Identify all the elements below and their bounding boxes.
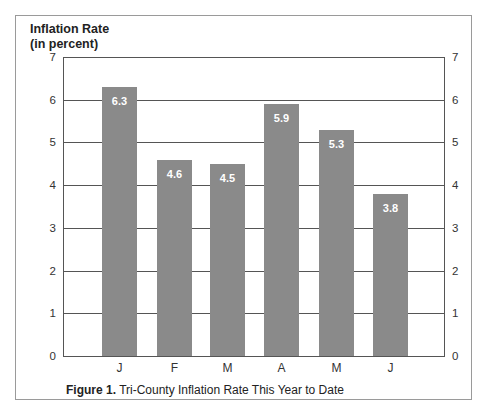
x-tick-label: M <box>319 361 355 375</box>
figure-caption: Figure 1. Tri-County Inflation Rate This… <box>66 383 344 397</box>
figure-label: Figure 1. <box>66 383 116 397</box>
bar-value-label: 6.3 <box>102 95 137 107</box>
y-axis-title-line-1: Inflation Rate <box>30 22 109 37</box>
bar-value-label: 4.5 <box>210 172 245 184</box>
x-tick-label: A <box>264 361 300 375</box>
y-axis-title-line-2: (in percent) <box>30 37 109 52</box>
y-tick-label-right: 2 <box>452 265 458 277</box>
bar: 4.6 <box>157 160 192 356</box>
bar: 4.5 <box>210 164 245 356</box>
y-tick-label-left: 7 <box>46 51 56 63</box>
plot-area: 6.34.64.55.95.33.8 <box>63 57 445 356</box>
bar-value-label: 5.9 <box>264 112 299 124</box>
y-axis-right-line <box>444 57 445 356</box>
x-tick-label: J <box>373 361 409 375</box>
y-tick-label-left: 1 <box>46 307 56 319</box>
y-axis-title: Inflation Rate (in percent) <box>30 22 109 52</box>
bar-value-label: 3.8 <box>373 202 408 214</box>
bar: 5.3 <box>319 130 354 356</box>
y-tick-label-right: 5 <box>452 136 458 148</box>
y-tick-label-left: 2 <box>46 265 56 277</box>
y-axis-left-line <box>63 57 64 356</box>
gridline <box>63 57 445 58</box>
bar: 6.3 <box>102 87 137 356</box>
figure-caption-text: Tri-County Inflation Rate This Year to D… <box>116 383 344 397</box>
y-tick-label-left: 6 <box>46 94 56 106</box>
x-tick-label: J <box>102 361 138 375</box>
bar: 5.9 <box>264 104 299 356</box>
y-tick-label-left: 5 <box>46 136 56 148</box>
y-tick-label-left: 4 <box>46 179 56 191</box>
y-tick-label-right: 6 <box>452 94 458 106</box>
y-tick-label-right: 7 <box>452 51 458 63</box>
y-tick-label-right: 0 <box>452 350 458 362</box>
gridline <box>63 356 445 357</box>
y-tick-label-left: 3 <box>46 222 56 234</box>
y-tick-label-right: 3 <box>452 222 458 234</box>
x-tick-label: F <box>157 361 193 375</box>
bar-value-label: 4.6 <box>157 168 192 180</box>
bar: 3.8 <box>373 194 408 356</box>
y-tick-label-left: 0 <box>46 350 56 362</box>
y-tick-label-right: 1 <box>452 307 458 319</box>
bar-value-label: 5.3 <box>319 138 354 150</box>
y-tick-label-right: 4 <box>452 179 458 191</box>
x-tick-label: M <box>210 361 246 375</box>
